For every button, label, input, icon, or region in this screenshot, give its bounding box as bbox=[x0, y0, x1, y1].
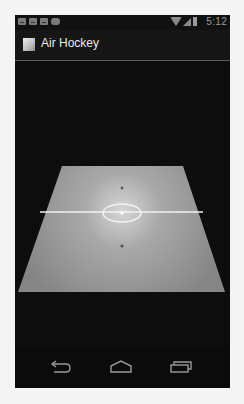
phone-screen: 5:12 Air Hockey bbox=[15, 15, 230, 388]
cloud-icon bbox=[51, 18, 60, 25]
gmail-icon bbox=[18, 18, 26, 25]
mallet-bottom[interactable] bbox=[120, 244, 123, 247]
gmail-icon bbox=[40, 18, 48, 25]
navigation-bar bbox=[15, 348, 230, 388]
back-button[interactable] bbox=[48, 360, 72, 374]
back-icon bbox=[48, 360, 72, 374]
home-button[interactable] bbox=[109, 360, 133, 374]
battery-icon bbox=[193, 17, 197, 26]
air-hockey-scene[interactable] bbox=[15, 61, 230, 348]
app-title: Air Hockey bbox=[41, 36, 99, 50]
status-bar: 5:12 bbox=[15, 15, 230, 30]
mallet-top[interactable] bbox=[121, 187, 124, 190]
app-icon[interactable] bbox=[23, 38, 35, 51]
recents-icon bbox=[169, 360, 193, 374]
signal-icon bbox=[183, 18, 191, 26]
recents-button[interactable] bbox=[169, 360, 193, 374]
home-icon bbox=[109, 360, 133, 374]
gl-surface-view[interactable] bbox=[15, 61, 230, 348]
action-bar: Air Hockey bbox=[15, 30, 230, 61]
gmail-icon bbox=[29, 18, 37, 25]
clock: 5:12 bbox=[206, 16, 227, 27]
table-surface[interactable] bbox=[18, 166, 225, 292]
puck[interactable] bbox=[120, 211, 123, 214]
wifi-icon bbox=[170, 17, 182, 26]
